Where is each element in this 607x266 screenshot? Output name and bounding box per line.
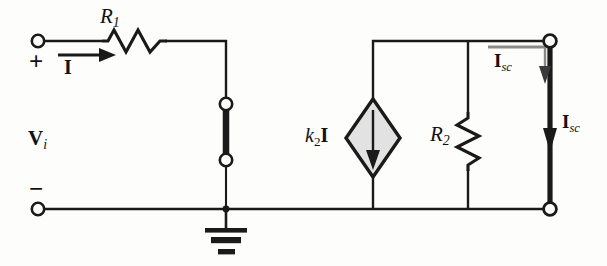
terminal-input-negative (32, 203, 44, 215)
label-r2: R2 (430, 124, 450, 148)
label-isc-top: Isc (494, 51, 512, 73)
label-isc-bottom: Isc (562, 112, 580, 134)
label-input-voltage: Vi (28, 128, 47, 152)
circuit-schematic-svg (0, 0, 607, 266)
label-isc-bottom-subscript: sc (569, 121, 579, 135)
label-r2-subscript: 2 (443, 133, 450, 148)
terminal-input-positive (32, 35, 44, 47)
terminal-output-negative (544, 203, 557, 216)
resistor-r1-zigzag (102, 30, 167, 52)
terminal-output-positive (544, 35, 557, 48)
label-vi-subscript: i (43, 137, 47, 152)
label-dependent-source: k2I (305, 125, 328, 148)
short-circuit-current-arrowhead (543, 128, 557, 152)
ground-bar-2 (211, 237, 241, 243)
label-terminal-positive: + (29, 49, 43, 74)
label-isc-top-subscript: sc (501, 60, 511, 74)
label-terminal-negative: − (29, 176, 43, 201)
circuit-diagram: R1 R2 Vi I k2I Isc Isc + − (0, 0, 607, 266)
terminal-short-link-bottom (220, 154, 232, 166)
resistor-r2-zigzag (457, 112, 479, 171)
label-r1: R1 (100, 6, 120, 30)
input-current-arrowhead (99, 48, 116, 62)
terminal-short-link-top (220, 98, 232, 110)
ground-bar-3 (218, 249, 235, 254)
label-input-current: I (64, 57, 72, 77)
label-r1-subscript: 1 (113, 15, 120, 30)
ground-bar-1 (205, 228, 247, 233)
